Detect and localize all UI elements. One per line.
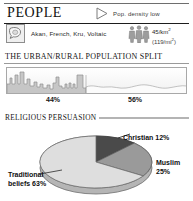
pie-label-christian: Christian 12% — [123, 133, 169, 142]
density-metric-exponent: 2 — [168, 27, 170, 32]
pie-label-muslim-line1: Muslim — [156, 159, 180, 166]
panel-header: PEOPLE Pop. density low — [4, 3, 189, 24]
languages-text: Akan, French, Kru, Voltaic — [31, 30, 106, 37]
pie-label-muslim-line2: 25% — [156, 168, 170, 175]
people-infographic-panel: PEOPLE Pop. density low Akan, French, Kr… — [0, 0, 193, 201]
page-title: PEOPLE — [7, 5, 62, 21]
pie-label-traditional-line2: beliefs 63% — [8, 180, 46, 187]
urban-rural-title: THE URBAN/RURAL POPULATION SPLIT — [5, 52, 162, 61]
pie-label-traditional: Traditional beliefs 63% — [8, 170, 46, 188]
info-row: Akan, French, Kru, Voltaic 45/km2 (119/m… — [4, 24, 189, 46]
pie-label-muslim: Muslim 25% — [156, 158, 180, 176]
triangle-outline-icon — [96, 7, 108, 20]
density-metric: 45/km — [152, 29, 168, 35]
rural-percentage-label: 56% — [128, 96, 142, 103]
density-legend: Pop. density low — [96, 7, 160, 20]
section-divider — [4, 63, 189, 64]
density-imperial-close: ) — [174, 39, 176, 45]
pie-label-traditional-line1: Traditional — [8, 171, 43, 178]
people-group-icon — [128, 25, 150, 43]
religion-title: RELIGIOUS PERSUASION — [5, 113, 96, 122]
density-imperial: (119/mi — [152, 39, 172, 45]
population-density-value: 45/km2 (119/mi2) — [152, 26, 176, 46]
density-legend-label: Pop. density low — [113, 11, 160, 17]
speech-bubble-icon — [6, 24, 25, 43]
religion-title-rule — [99, 117, 189, 119]
urban-percentage-label: 44% — [46, 96, 60, 103]
urban-rural-chart — [6, 67, 187, 94]
